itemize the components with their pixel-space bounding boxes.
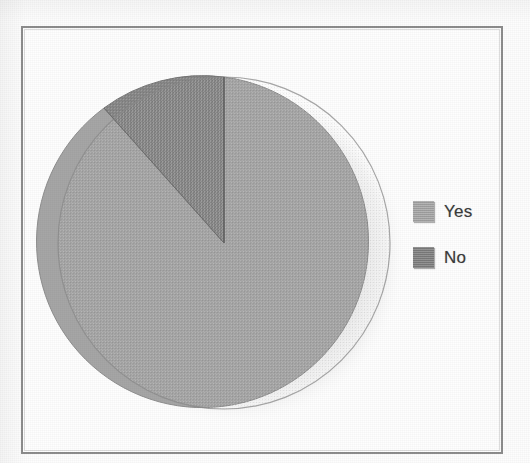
figure-page: Yes No (0, 0, 530, 463)
legend-item-no[interactable]: No (413, 242, 499, 272)
legend-swatch-no (413, 247, 434, 268)
legend-swatch-yes (413, 201, 434, 222)
legend-item-yes[interactable]: Yes (413, 196, 499, 226)
chart-legend: Yes No (413, 196, 499, 288)
legend-label-no: No (444, 248, 466, 267)
legend-label-yes: Yes (444, 202, 472, 221)
